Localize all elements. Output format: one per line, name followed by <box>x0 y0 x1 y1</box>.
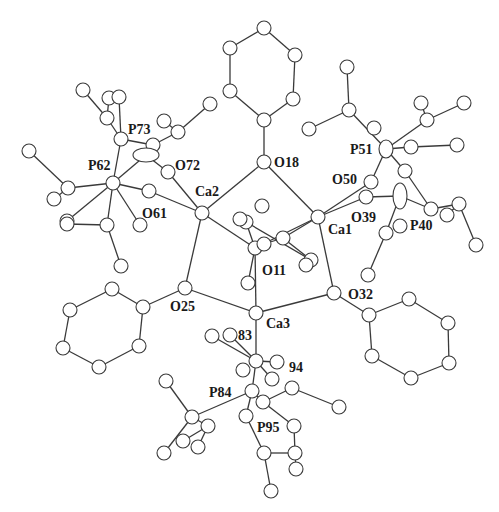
atom-b94b <box>236 363 250 377</box>
atom-p62a <box>61 181 75 195</box>
atom-r32d <box>442 356 456 370</box>
atom-p84e <box>287 419 301 433</box>
atom-label-p84: P84 <box>209 385 232 400</box>
atom-p51j <box>398 164 412 178</box>
labels-layer: Ca1Ca2Ca3O11O18O25O32O39P40O50P51O61P62O… <box>88 122 433 435</box>
atom-p84f <box>185 410 199 424</box>
atom-p51c <box>302 122 316 136</box>
atom-p40d <box>379 226 393 240</box>
atom-label-p51: P51 <box>350 142 373 157</box>
atom-label-p73: P73 <box>128 122 151 137</box>
atom-ca3 <box>249 306 263 320</box>
atom-p84g <box>159 374 173 388</box>
atom-p95c <box>288 446 302 460</box>
atom-r18c <box>288 48 302 62</box>
atom-p73h <box>203 97 217 111</box>
atom-r18d <box>257 21 271 35</box>
atom-p73b <box>76 83 90 97</box>
atom-label-p62: P62 <box>88 158 111 173</box>
atom-p40a <box>440 208 454 222</box>
atom-o39 <box>359 190 373 204</box>
atom-p84h <box>201 419 215 433</box>
atom-p62g <box>114 259 128 273</box>
atom-p84k <box>157 446 171 460</box>
atom-p84d <box>332 400 346 414</box>
atom-label-p95: P95 <box>257 420 280 435</box>
atom-b83a <box>205 329 219 343</box>
atom-p73i <box>133 148 159 162</box>
atom-r11b <box>276 231 290 245</box>
atom-p84j <box>191 440 205 454</box>
atom-label-ca1: Ca1 <box>328 222 352 237</box>
atom-c40e <box>393 183 407 209</box>
atom-r11d <box>299 258 313 272</box>
atom-b83b <box>223 328 237 342</box>
molecular-structure-diagram: Ca1Ca2Ca3O11O18O25O32O39P40O50P51O61P62O… <box>0 0 499 512</box>
atom-p62f <box>60 217 74 231</box>
atom-p51i <box>450 138 464 152</box>
atom-label-ca2: Ca2 <box>195 184 219 199</box>
bond <box>292 388 339 407</box>
atom-p73d <box>112 90 126 104</box>
atom-ca2 <box>195 206 209 220</box>
atom-b94a <box>249 354 263 368</box>
bond <box>29 151 68 188</box>
atom-b94c <box>270 355 284 369</box>
atom-label-ca3: Ca3 <box>266 316 290 331</box>
atom-r32e <box>441 316 455 330</box>
atom-p51b <box>340 60 354 74</box>
bond <box>185 288 256 313</box>
atom-p95e <box>264 484 278 498</box>
atom-p40f <box>361 268 375 282</box>
atom-p73 <box>114 132 128 146</box>
atom-p62c <box>47 192 61 206</box>
atom-p73a <box>100 111 114 125</box>
atom-label-o25: O25 <box>170 299 195 314</box>
bond <box>185 213 202 288</box>
atom-r11h <box>241 276 255 290</box>
atom-p84b <box>256 395 270 409</box>
atom-p95a <box>239 409 253 423</box>
bond <box>255 248 256 313</box>
atom-p62 <box>106 176 120 190</box>
atom-b94d <box>265 372 279 386</box>
atom-r32b <box>365 349 379 363</box>
atom-r32a <box>362 308 376 322</box>
atom-r11f <box>233 212 247 226</box>
atom-p95d <box>289 462 303 476</box>
atom-r11a <box>257 237 271 251</box>
atom-label-o39: O39 <box>351 210 376 225</box>
atom-r25c <box>92 360 106 374</box>
atom-r25b <box>132 339 146 353</box>
atom-p40 <box>424 202 438 216</box>
atom-label-o18: O18 <box>274 155 299 170</box>
atom-label-l83: 83 <box>238 328 252 343</box>
atom-p62e <box>100 218 114 232</box>
atom-r18f <box>223 84 237 98</box>
atom-p62b <box>22 144 36 158</box>
atom-r25a <box>136 300 150 314</box>
atom-o18 <box>257 155 271 169</box>
bond <box>264 162 318 217</box>
atom-r18e <box>223 41 237 55</box>
atom-p73f <box>171 125 185 139</box>
atom-r32c <box>404 371 418 385</box>
atom-ca1 <box>311 210 325 224</box>
atom-p95b <box>257 446 271 460</box>
atom-p40c <box>469 238 483 252</box>
bond <box>256 293 334 313</box>
atom-label-o50: O50 <box>332 172 357 187</box>
atom-p84c <box>285 381 299 395</box>
atom-p51d <box>367 121 381 135</box>
atom-r18b <box>286 92 300 106</box>
atom-p40b <box>452 197 466 211</box>
atom-p73g <box>157 114 171 128</box>
bonds-layer <box>29 28 476 491</box>
atom-label-o11: O11 <box>262 263 286 278</box>
atom-r25e <box>63 303 77 317</box>
atom-r18a <box>257 113 271 127</box>
atom-o32 <box>327 286 341 300</box>
atom-label-o32: O32 <box>348 287 373 302</box>
atom-label-o72: O72 <box>175 158 200 173</box>
atom-label-o61: O61 <box>142 206 167 221</box>
